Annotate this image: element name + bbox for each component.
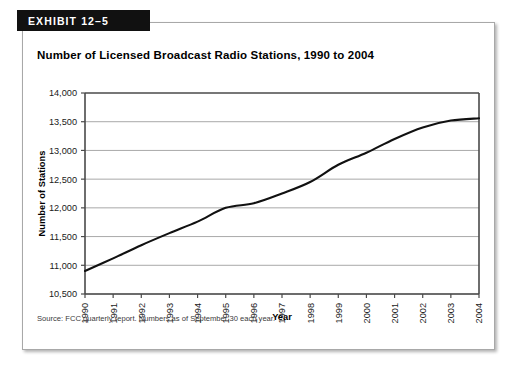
source-note: Source: FCC quarterly report. Numbers as… — [37, 314, 275, 323]
line-chart-svg: 10,50011,00011,50012,00012,50013,00013,5… — [23, 23, 496, 323]
xtick-label: 1998 — [306, 303, 316, 323]
ytick-label: 12,500 — [49, 175, 77, 185]
exhibit-banner: EXHIBIT 12–5 — [17, 10, 150, 31]
ytick-label: 12,000 — [49, 203, 77, 213]
ytick-label: 11,000 — [50, 261, 77, 271]
exhibit-figure: EXHIBIT 12–5 Number of Licensed Broadcas… — [0, 0, 517, 377]
y-axis-label: Number of Stations — [37, 151, 47, 237]
ytick-label: 13,000 — [49, 146, 77, 156]
ytick-label: 14,000 — [49, 88, 77, 98]
ytick-label: 13,500 — [49, 117, 77, 127]
xtick-label: 2001 — [390, 303, 400, 323]
ytick-label: 11,500 — [50, 232, 77, 242]
chart-plot-area: 10,50011,00011,50012,00012,50013,00013,5… — [23, 23, 496, 351]
data-series-line — [85, 118, 479, 271]
xtick-label: 2004 — [474, 303, 484, 323]
ytick-label: 10,500 — [49, 289, 77, 299]
x-axis-label: Year — [272, 312, 292, 322]
exhibit-banner-label: EXHIBIT 12–5 — [17, 15, 109, 27]
xtick-label: 1999 — [334, 303, 344, 323]
exhibit-card: Number of Licensed Broadcast Radio Stati… — [22, 22, 495, 350]
xtick-label: 2000 — [362, 303, 372, 323]
xtick-label: 2003 — [446, 303, 456, 323]
xtick-label: 2002 — [418, 303, 428, 323]
